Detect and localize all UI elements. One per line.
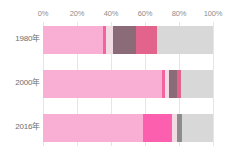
bar-segment-segment-1	[43, 26, 103, 54]
bar-row-2016	[43, 114, 213, 142]
category-label-1980: 1980年	[0, 32, 40, 43]
bar-segment-segment-2	[143, 114, 172, 142]
bar-segment-segment-5	[136, 26, 156, 54]
category-label-2016: 2016年	[0, 120, 40, 131]
category-label-2000: 2000年	[0, 76, 40, 87]
x-tick-label: 60%	[138, 9, 152, 18]
bar-segment-segment-1	[43, 70, 162, 98]
bar-segment-segment-6	[157, 26, 213, 54]
bar-row-1980	[43, 26, 213, 54]
x-tick-label: 20%	[70, 9, 84, 18]
x-tick-label: 100%	[204, 9, 222, 18]
gridline	[213, 22, 214, 146]
x-tick-label: 80%	[172, 9, 186, 18]
stacked-bar	[43, 114, 213, 142]
bar-row-2000	[43, 70, 213, 98]
stacked-bar	[43, 26, 213, 54]
stacked-bar	[43, 70, 213, 98]
bar-segment-segment-6	[181, 70, 213, 98]
bar-segment-segment-1	[43, 114, 143, 142]
plot-area	[43, 22, 213, 146]
bar-segment-segment-4	[113, 26, 137, 54]
bar-segment-segment-4	[169, 70, 178, 98]
x-tick-label: 40%	[104, 9, 118, 18]
bar-segment-segment-3	[106, 26, 113, 54]
bar-segment-segment-6	[182, 114, 213, 142]
stacked-bar-chart: 0% 20% 40% 60% 80% 100% 1980年 2000年 2016…	[0, 0, 227, 160]
x-tick-label: 0%	[38, 9, 48, 18]
